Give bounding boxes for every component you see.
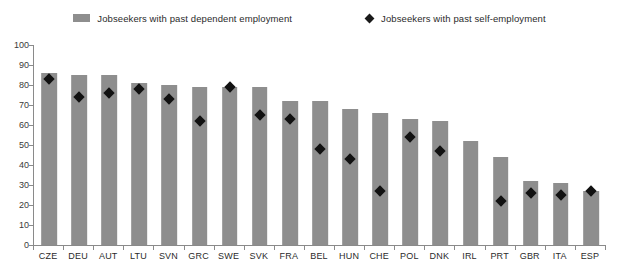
x-tick-pol — [424, 246, 425, 250]
y-tick-mark-60 — [29, 125, 33, 126]
x-tick-deu — [93, 246, 94, 250]
x-tick-label-deu: DEU — [68, 251, 88, 261]
bar-grc[interactable] — [192, 87, 208, 245]
x-tick-ita — [575, 246, 576, 250]
bar-group-ltu[interactable] — [124, 45, 154, 245]
bar-group-pol[interactable] — [395, 45, 425, 245]
y-tick-label-0: 0 — [0, 240, 29, 250]
y-tick-mark-40 — [29, 165, 33, 166]
bar-group-swe[interactable] — [215, 45, 245, 245]
legend-entry-dependent-employment: Jobseekers with past dependent employmen… — [73, 13, 292, 24]
y-tick-mark-90 — [29, 65, 33, 66]
bar-group-esp[interactable] — [576, 45, 606, 245]
bar-group-deu[interactable] — [64, 45, 94, 245]
y-tick-mark-100 — [29, 45, 33, 46]
x-tick-label-bel: BEL — [310, 251, 328, 261]
x-tick-label-che: CHE — [369, 251, 389, 261]
x-tick-label-pol: POL — [400, 251, 419, 261]
bar-group-prt[interactable] — [486, 45, 516, 245]
bar-ltu[interactable] — [132, 83, 148, 245]
x-tick-label-svk: SVK — [249, 251, 268, 261]
diamond-marker-icon — [365, 13, 375, 23]
x-tick-label-aut: AUT — [99, 251, 118, 261]
chart-legend: Jobseekers with past dependent employmen… — [0, 8, 619, 28]
x-tick-label-svn: SVN — [159, 251, 178, 261]
x-tick-label-swe: SWE — [218, 251, 239, 261]
x-tick-esp — [605, 246, 606, 250]
x-axis: CZEDEUAUTLTUSVNGRCSWESVKFRABELHUNCHEPOLD… — [33, 251, 605, 267]
x-tick-dnk — [454, 246, 455, 250]
bar-svn[interactable] — [162, 85, 178, 245]
x-tick-grc — [214, 246, 215, 250]
y-tick-mark-70 — [29, 105, 33, 106]
bar-bel[interactable] — [312, 101, 328, 245]
x-tick-label-grc: GRC — [188, 251, 209, 261]
y-tick-label-40: 40 — [0, 160, 29, 170]
bar-group-ita[interactable] — [546, 45, 576, 245]
y-tick-mark-50 — [29, 145, 33, 146]
x-tick-svk — [274, 246, 275, 250]
bar-che[interactable] — [372, 113, 388, 245]
x-tick-label-prt: PRT — [490, 251, 508, 261]
x-tick-aut — [123, 246, 124, 250]
bar-group-dnk[interactable] — [425, 45, 455, 245]
x-tick-label-fra: FRA — [280, 251, 299, 261]
x-tick-label-ita: ITA — [553, 251, 567, 261]
bar-aut[interactable] — [101, 75, 117, 245]
bar-group-fra[interactable] — [275, 45, 305, 245]
x-tick-prt — [515, 246, 516, 250]
bar-group-bel[interactable] — [305, 45, 335, 245]
x-tick-fra — [304, 246, 305, 250]
bar-hun[interactable] — [342, 109, 358, 245]
x-tick-label-hun: HUN — [339, 251, 359, 261]
x-tick-hun — [364, 246, 365, 250]
y-tick-mark-0 — [29, 245, 33, 246]
x-tick-gbr — [545, 246, 546, 250]
plot-area — [33, 45, 606, 246]
x-tick-label-cze: CZE — [39, 251, 58, 261]
y-tick-label-10: 10 — [0, 220, 29, 230]
y-tick-label-20: 20 — [0, 200, 29, 210]
x-tick-cze — [63, 246, 64, 250]
data-layer — [34, 45, 606, 245]
y-tick-mark-30 — [29, 185, 33, 186]
bar-irl[interactable] — [463, 141, 479, 245]
y-tick-label-50: 50 — [0, 140, 29, 150]
chart-container: Jobseekers with past dependent employmen… — [0, 0, 619, 276]
x-tick-label-ltu: LTU — [130, 251, 147, 261]
y-tick-label-70: 70 — [0, 100, 29, 110]
bar-swatch-icon — [73, 14, 90, 22]
y-axis: 1009080706050403020100 — [0, 45, 29, 245]
bar-group-aut[interactable] — [94, 45, 124, 245]
x-tick-svn — [184, 246, 185, 250]
bar-swe[interactable] — [222, 87, 238, 245]
bar-group-gbr[interactable] — [516, 45, 546, 245]
x-tick-bel — [334, 246, 335, 250]
bar-group-hun[interactable] — [335, 45, 365, 245]
x-tick-irl — [485, 246, 486, 250]
x-tick-origin — [33, 246, 34, 250]
bar-cze[interactable] — [41, 73, 57, 245]
x-tick-che — [394, 246, 395, 250]
x-tick-label-irl: IRL — [462, 251, 477, 261]
legend-entry-self-employment: Jobseekers with past self-employment — [366, 13, 546, 24]
bar-group-irl[interactable] — [455, 45, 485, 245]
bar-group-grc[interactable] — [185, 45, 215, 245]
bar-group-svk[interactable] — [245, 45, 275, 245]
bar-group-svn[interactable] — [154, 45, 184, 245]
x-tick-ltu — [153, 246, 154, 250]
x-tick-label-gbr: GBR — [520, 251, 540, 261]
x-tick-label-esp: ESP — [581, 251, 600, 261]
y-tick-label-60: 60 — [0, 120, 29, 130]
y-tick-mark-80 — [29, 85, 33, 86]
y-tick-label-90: 90 — [0, 60, 29, 70]
bar-group-che[interactable] — [365, 45, 395, 245]
bar-dnk[interactable] — [433, 121, 449, 245]
legend-label-dependent-employment: Jobseekers with past dependent employmen… — [97, 13, 292, 24]
y-tick-label-100: 100 — [0, 40, 29, 50]
x-tick-label-dnk: DNK — [430, 251, 450, 261]
x-tick-swe — [244, 246, 245, 250]
bar-esp[interactable] — [583, 191, 599, 245]
y-tick-label-80: 80 — [0, 80, 29, 90]
bar-group-cze[interactable] — [34, 45, 64, 245]
